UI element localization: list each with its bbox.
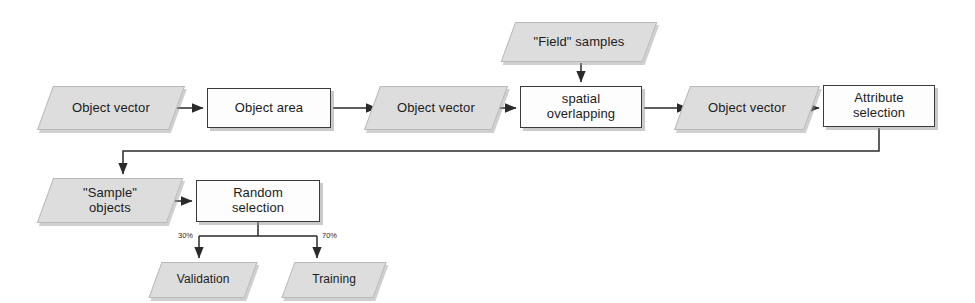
node-label: Object vector (46, 101, 176, 116)
node-label: Object vector (683, 101, 811, 116)
node-label: Object area (208, 101, 330, 116)
node-label-line2: objects (89, 200, 131, 215)
node-object-area[interactable]: Object area (207, 88, 331, 128)
node-attribute-selection[interactable]: Attribute selection (823, 85, 935, 127)
node-training[interactable]: Training (281, 262, 386, 298)
node-label-block: Attribute selection (824, 91, 934, 120)
flowchart-canvas: Object vector Object area Object vector … (0, 0, 975, 303)
node-label-line2: overlapping (547, 106, 615, 121)
node-random-selection[interactable]: Random selection (196, 180, 320, 222)
node-label: Validation (156, 273, 250, 286)
node-spatial-overlapping[interactable]: spatial overlapping (520, 86, 642, 128)
node-object-vector-3[interactable]: Object vector (674, 86, 820, 130)
node-label-block: Random selection (197, 186, 319, 215)
node-sample-objects[interactable]: "Sample" objects (37, 178, 183, 223)
node-label-line2: selection (232, 200, 284, 215)
node-label-line1: Random (233, 185, 283, 200)
edge-label-training-percent: 70% (322, 231, 337, 240)
connector-layer (0, 0, 975, 303)
edge-random-selection-split (199, 222, 317, 258)
node-object-vector-1[interactable]: Object vector (37, 86, 185, 130)
node-label: "Field" samples (509, 35, 649, 50)
node-validation[interactable]: Validation (148, 262, 257, 298)
node-label-line2: selection (853, 105, 905, 120)
edge-label-validation-percent: 30% (178, 231, 193, 240)
node-label: Training (289, 273, 379, 286)
node-label-line1: Attribute (854, 90, 903, 105)
node-label-line1: spatial (562, 91, 600, 106)
node-field-samples[interactable]: "Field" samples (501, 22, 658, 62)
node-label: Object vector (373, 101, 499, 116)
edge-attribute-selection-to-sample-objects (123, 128, 879, 174)
node-label-line1: "Sample" (83, 185, 137, 200)
node-label-block: spatial overlapping (521, 92, 641, 121)
node-object-vector-2[interactable]: Object vector (364, 86, 508, 130)
node-label-block: "Sample" objects (46, 186, 174, 215)
